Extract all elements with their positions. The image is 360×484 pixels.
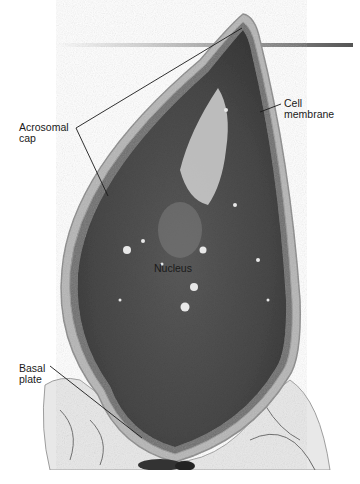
label-acrosomal-cap: Acrosomal cap [19,122,69,144]
label-basal-plate: Basal plate [19,363,45,385]
micrograph-figure: Acrosomal cap Cell membrane Nucleus Basa… [0,0,360,484]
label-nucleus: Nucleus [154,263,192,274]
micrograph-image [0,0,360,484]
scale-bar [55,43,353,47]
label-cell-membrane: Cell membrane [284,98,334,120]
